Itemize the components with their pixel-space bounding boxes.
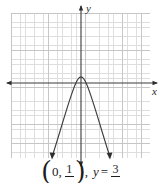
open-paren: ( [42, 162, 51, 179]
y-axis-label: y [86, 3, 91, 14]
caption-outer-comma: , [85, 161, 90, 178]
point-comma: , [58, 161, 63, 178]
close-paren: ) [76, 162, 85, 179]
fraction-bar [65, 176, 74, 177]
x-axis-left-arrowhead [6, 81, 12, 85]
caption-expression: ( 0 , 1 ) , y = 3 [42, 160, 121, 179]
fraction-bar [111, 176, 120, 177]
graph-figure: y x ( 0 , 1 ) , y = 3 [0, 0, 163, 183]
equals-sign: = [99, 161, 110, 178]
parabola-right-arrowhead [107, 153, 113, 160]
equation-fraction: 3 [111, 163, 120, 178]
y-axis-top-arrowhead [79, 5, 83, 11]
axes-and-curve [0, 0, 163, 183]
point-y-numerator: 1 [66, 163, 72, 176]
parabola-left-arrowhead [50, 153, 56, 160]
point-y-fraction: 1 [65, 163, 74, 178]
caption: ( 0 , 1 ) , y = 3 [0, 160, 163, 183]
x-axis-label: x [152, 86, 157, 97]
equation-numerator: 3 [113, 163, 119, 176]
